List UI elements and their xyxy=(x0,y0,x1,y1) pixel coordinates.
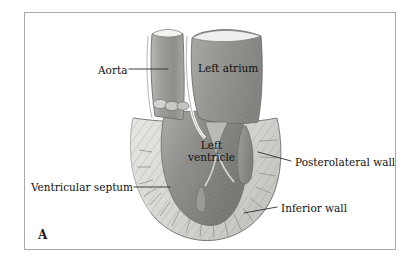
label-inferior-wall: Inferior wall xyxy=(281,202,347,214)
left-atrium xyxy=(186,26,271,128)
label-aorta: Aorta xyxy=(98,64,127,76)
aorta-cut-rim xyxy=(152,30,183,38)
label-left-ventricle: Left ventricle xyxy=(188,139,235,163)
label-left-atrium: Left atrium xyxy=(198,62,258,74)
panel-letter: A xyxy=(38,228,48,242)
figure-container: Aorta Left atrium Left ventricle Postero… xyxy=(0,0,416,266)
label-left-ventricle-line2: ventricle xyxy=(188,151,235,163)
label-ventricular-septum: Ventricular septum xyxy=(31,181,133,193)
label-posterolateral-wall: Posterolateral wall xyxy=(295,156,395,168)
heart-anatomy-illustration xyxy=(0,0,416,266)
label-left-ventricle-line1: Left xyxy=(188,139,235,151)
